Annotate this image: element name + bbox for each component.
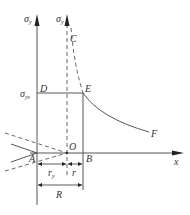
label-R: R — [55, 189, 62, 200]
point-O-marker — [66, 152, 68, 154]
sigma-y-axis-solid — [35, 14, 40, 205]
label-x-axis: x — [173, 156, 179, 167]
label-D: D — [39, 83, 48, 94]
label-O: O — [69, 141, 76, 152]
label-B: B — [86, 153, 92, 164]
label-F: F — [150, 128, 158, 139]
label-sigma-y-left: σy — [24, 13, 32, 25]
arrow-up-icon — [65, 14, 70, 26]
arrow-right-icon — [172, 151, 184, 156]
label-C: C — [70, 33, 77, 44]
label-A: A — [28, 153, 36, 164]
label-r-y: ry — [48, 167, 55, 179]
label-r: r — [72, 167, 76, 178]
label-sigma-y-right: σy — [56, 13, 64, 25]
label-sigma-ys: σys — [20, 88, 31, 100]
stress-distribution-diagram: σy σy C σys D E F A O B x ry r R — [0, 0, 190, 215]
x-axis — [30, 151, 184, 156]
redistributed-stress-curve — [83, 93, 149, 132]
arrow-up-icon — [35, 14, 40, 26]
label-E: E — [84, 83, 91, 94]
effective-crack-dashed — [5, 133, 67, 171]
